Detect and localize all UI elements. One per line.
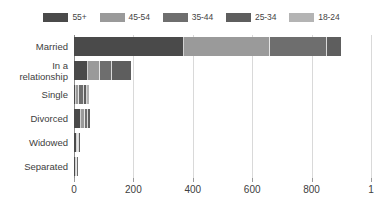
legend-label: 18-24 — [318, 13, 339, 22]
bar-segment[interactable] — [112, 61, 131, 80]
x-axis-tick — [312, 178, 313, 182]
stacked-bar[interactable] — [74, 157, 78, 176]
bar-segment[interactable] — [327, 37, 341, 56]
x-axis-tick — [133, 178, 134, 182]
bar-segment[interactable] — [87, 85, 89, 104]
bar-row — [74, 83, 89, 107]
legend-swatch-icon — [226, 13, 251, 22]
stacked-bar[interactable] — [74, 61, 131, 80]
bar-row — [74, 59, 131, 83]
x-axis: 02004006008001 — [74, 178, 383, 208]
y-axis-label-line: In a — [0, 60, 68, 71]
stacked-bar-chart: 55+45-5435-4425-3418-24 MarriedIn arelat… — [0, 0, 383, 212]
legend-item-25to34[interactable]: 25-34 — [226, 13, 276, 22]
legend-item-45to54[interactable]: 45-54 — [100, 13, 150, 22]
bar-row — [74, 130, 79, 154]
bar-row — [74, 35, 341, 59]
y-axis-label-separated: Separated — [0, 161, 68, 172]
bar-rows — [74, 35, 371, 178]
legend-item-55plus[interactable]: 55+ — [43, 13, 86, 22]
x-axis-tick — [193, 178, 194, 182]
bar-segment[interactable] — [74, 61, 88, 80]
chart-legend: 55+45-5435-4425-3418-24 — [0, 9, 383, 25]
y-axis-label-line: Single — [0, 89, 68, 100]
bar-row — [74, 154, 78, 178]
stacked-bar[interactable] — [74, 37, 341, 56]
y-axis-label-divorced: Divorced — [0, 113, 68, 124]
legend-swatch-icon — [289, 13, 314, 22]
legend-item-18to24[interactable]: 18-24 — [289, 13, 339, 22]
x-axis-tick-label: 400 — [184, 184, 201, 196]
x-axis-tick — [74, 178, 75, 182]
y-axis-label-line: Separated — [0, 161, 68, 172]
bar-row — [74, 107, 90, 131]
y-axis-label-line: relationship — [0, 71, 68, 82]
legend-label: 35-44 — [192, 13, 213, 22]
y-axis-category-labels: MarriedIn arelationshipSingleDivorcedWid… — [0, 35, 70, 178]
bar-segment[interactable] — [184, 37, 270, 56]
x-axis-tick-label: 200 — [125, 184, 142, 196]
stacked-bar[interactable] — [74, 109, 90, 128]
bar-segment[interactable] — [88, 109, 90, 128]
y-axis-label-line: Divorced — [0, 113, 68, 124]
legend-label: 45-54 — [129, 13, 150, 22]
x-axis-tick-label: 1 — [368, 184, 374, 196]
bar-segment[interactable] — [88, 61, 100, 80]
gridline — [371, 35, 372, 178]
y-axis-label-widowed: Widowed — [0, 137, 68, 148]
x-axis-tick-label: 0 — [71, 184, 77, 196]
x-axis-tick — [252, 178, 253, 182]
bar-segment[interactable] — [74, 37, 184, 56]
legend-swatch-icon — [43, 13, 68, 22]
y-axis-label-single: Single — [0, 89, 68, 100]
legend-swatch-icon — [163, 13, 188, 22]
legend-label: 55+ — [72, 13, 86, 22]
x-axis-tick — [371, 178, 372, 182]
legend-swatch-icon — [100, 13, 125, 22]
x-axis-tick-label: 600 — [244, 184, 261, 196]
x-axis-tick-label: 800 — [303, 184, 320, 196]
y-axis-label-line: Married — [0, 41, 68, 52]
plot-area — [74, 35, 371, 178]
bar-segment[interactable] — [100, 61, 112, 80]
y-axis-label-in-a-relationship: In arelationship — [0, 60, 68, 82]
y-axis-label-line: Widowed — [0, 137, 68, 148]
y-axis-label-married: Married — [0, 41, 68, 52]
bar-segment[interactable] — [270, 37, 327, 56]
stacked-bar[interactable] — [74, 133, 79, 152]
legend-label: 25-34 — [255, 13, 276, 22]
legend-item-35to44[interactable]: 35-44 — [163, 13, 213, 22]
stacked-bar[interactable] — [74, 85, 89, 104]
